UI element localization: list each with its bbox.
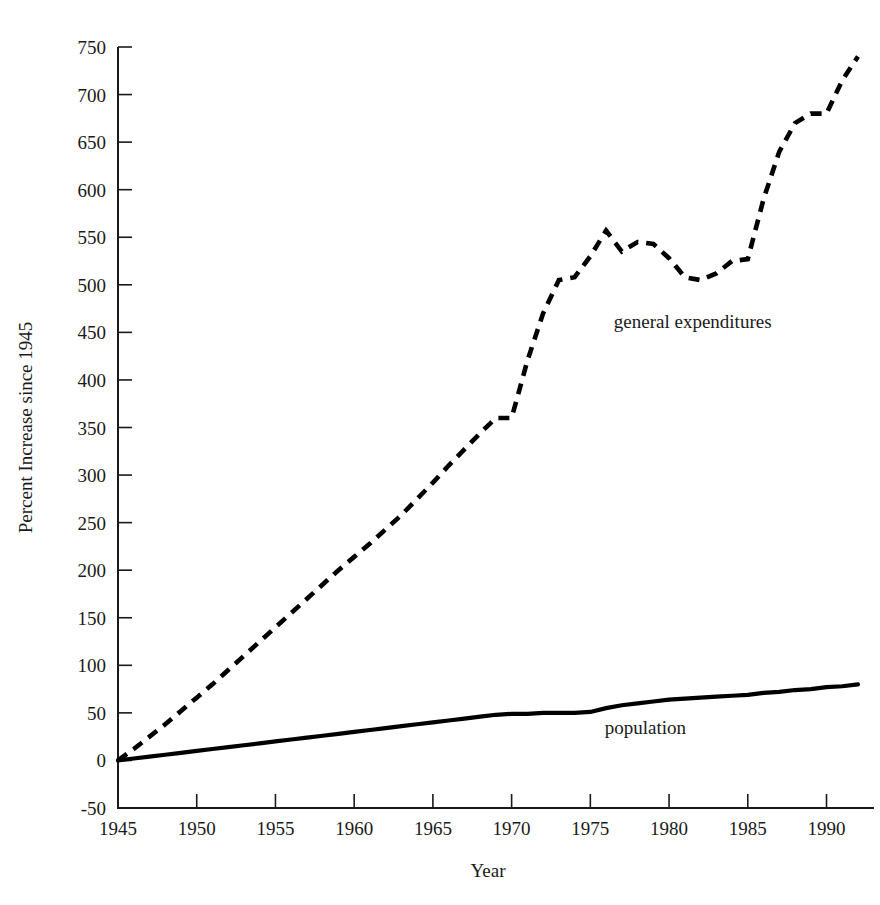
x-tick-label: 1955 bbox=[256, 818, 294, 839]
y-tick-label: 700 bbox=[78, 85, 107, 106]
data-series bbox=[118, 57, 858, 761]
y-tick-label: -50 bbox=[81, 798, 106, 819]
y-tick-label: 50 bbox=[87, 703, 106, 724]
y-tick-label: 450 bbox=[78, 322, 107, 343]
x-tick-labels: 1945195019551960196519701975198019851990 bbox=[99, 818, 846, 839]
y-tick-label: 750 bbox=[78, 37, 107, 58]
x-tick-label: 1950 bbox=[178, 818, 216, 839]
y-tick-label: 150 bbox=[78, 608, 107, 629]
series-label-general-expenditures: general expenditures bbox=[614, 311, 772, 332]
series-line-general-expenditures bbox=[118, 57, 858, 761]
y-axis-title: Percent Increase since 1945 bbox=[15, 322, 36, 534]
x-tick-label: 1970 bbox=[493, 818, 531, 839]
y-tick-label: 500 bbox=[78, 275, 107, 296]
y-tick-label: 100 bbox=[78, 655, 107, 676]
x-axis-title: Year bbox=[470, 860, 506, 881]
y-tick-labels: -500501001502002503003504004505005506006… bbox=[78, 37, 107, 819]
x-tick-label: 1965 bbox=[414, 818, 452, 839]
y-tick-label: 400 bbox=[78, 370, 107, 391]
x-tick-label: 1990 bbox=[808, 818, 846, 839]
y-tick-label: 650 bbox=[78, 132, 107, 153]
y-tick-label: 600 bbox=[78, 180, 107, 201]
x-tick-label: 1980 bbox=[650, 818, 688, 839]
x-tick-label: 1960 bbox=[335, 818, 373, 839]
line-chart: -500501001502002503003504004505005506006… bbox=[0, 0, 880, 905]
y-tick-label: 300 bbox=[78, 465, 107, 486]
tick-marks bbox=[118, 47, 827, 808]
series-annotations: general expenditurespopulation bbox=[605, 311, 772, 738]
y-tick-label: 200 bbox=[78, 560, 107, 581]
series-label-population: population bbox=[605, 717, 687, 738]
y-tick-label: 250 bbox=[78, 513, 107, 534]
x-tick-label: 1975 bbox=[571, 818, 609, 839]
x-tick-label: 1985 bbox=[729, 818, 767, 839]
y-tick-label: 350 bbox=[78, 418, 107, 439]
y-tick-label: 550 bbox=[78, 227, 107, 248]
y-tick-label: 0 bbox=[97, 750, 107, 771]
chart-figure: -500501001502002503003504004505005506006… bbox=[0, 0, 880, 905]
x-tick-label: 1945 bbox=[99, 818, 137, 839]
series-line-population bbox=[118, 684, 858, 760]
